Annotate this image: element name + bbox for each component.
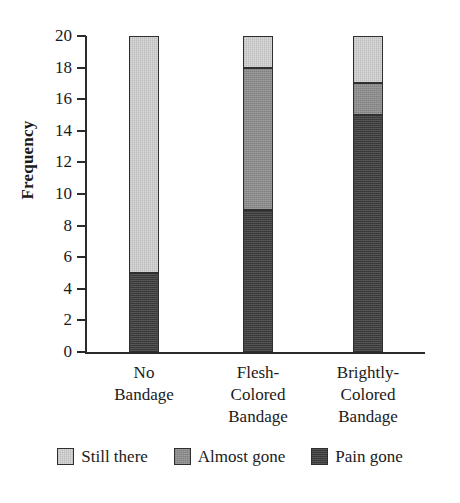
y-tick-mark	[77, 35, 86, 37]
segment-texture	[244, 211, 272, 351]
bar-segment-pain	[243, 210, 273, 352]
x-axis-line	[85, 352, 425, 354]
segment-texture	[244, 69, 272, 209]
bar-segment-still	[353, 36, 383, 83]
swatch-texture	[175, 449, 190, 464]
y-tick-label: 16	[28, 90, 72, 107]
y-tick-label: 14	[28, 122, 72, 139]
swatch-texture	[58, 449, 73, 464]
bar-segment-pain	[129, 273, 159, 352]
y-tick-label: 2	[28, 311, 72, 328]
legend-swatch-icon	[57, 448, 74, 465]
stacked-bar-chart: Frequency 20181614121086420 NoBandageFle…	[0, 0, 460, 503]
y-tick-mark	[77, 161, 86, 163]
x-axis-label-3: Brightly-ColoredBandage	[303, 362, 433, 428]
y-tick-mark	[77, 225, 86, 227]
segment-texture	[130, 37, 158, 272]
bar-3	[353, 36, 383, 352]
x-axis-label-line: Brightly-	[303, 362, 433, 384]
y-tick-label: 12	[28, 153, 72, 170]
y-tick-mark	[77, 67, 86, 69]
y-tick-mark	[77, 98, 86, 100]
y-tick-label: 8	[28, 217, 72, 234]
bar-segment-still	[243, 36, 273, 68]
y-tick-mark	[77, 130, 86, 132]
legend-item-2: Almost gone	[174, 448, 285, 465]
segment-texture	[244, 37, 272, 67]
segment-texture	[354, 37, 382, 82]
x-axis-label-line: Colored	[303, 384, 433, 406]
x-axis-label-line: Bandage	[79, 384, 209, 406]
x-axis-label-line: No	[79, 362, 209, 384]
y-tick-label: 20	[28, 27, 72, 44]
legend-label: Still there	[81, 448, 148, 465]
y-tick-mark	[77, 256, 86, 258]
legend-item-1: Still there	[57, 448, 148, 465]
legend-label: Almost gone	[198, 448, 285, 465]
swatch-texture	[312, 449, 327, 464]
bar-segment-almost	[243, 68, 273, 210]
y-tick-label: 0	[28, 343, 72, 360]
legend-label: Pain gone	[335, 448, 403, 465]
x-axis-label-1: NoBandage	[79, 362, 209, 406]
bar-segment-pain	[353, 115, 383, 352]
bar-segment-almost	[353, 83, 383, 115]
chart-legend: Still thereAlmost gonePain gone	[0, 448, 460, 465]
y-tick-label: 6	[28, 248, 72, 265]
y-tick-label: 4	[28, 280, 72, 297]
y-tick-mark	[77, 193, 86, 195]
legend-item-3: Pain gone	[311, 448, 403, 465]
legend-swatch-icon	[311, 448, 328, 465]
bar-segment-still	[129, 36, 159, 273]
bar-2	[243, 36, 273, 352]
bar-1	[129, 36, 159, 352]
segment-texture	[130, 274, 158, 351]
y-tick-mark	[77, 351, 86, 353]
segment-texture	[354, 116, 382, 351]
y-tick-mark	[77, 288, 86, 290]
y-tick-mark	[77, 319, 86, 321]
x-axis-label-line: Bandage	[303, 406, 433, 428]
segment-texture	[354, 84, 382, 114]
y-tick-label: 18	[28, 59, 72, 76]
y-tick-label: 10	[28, 185, 72, 202]
legend-swatch-icon	[174, 448, 191, 465]
